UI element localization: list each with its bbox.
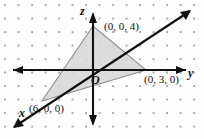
y-axis-letter: y: [188, 67, 193, 79]
z-axis-letter: z: [80, 5, 85, 17]
origin-letter: O: [91, 74, 100, 86]
point-label-x-intercept: (6, 0, 0): [29, 103, 64, 114]
point-label-y-intercept: (0, 3, 0): [144, 74, 179, 85]
axes-and-triangle: [0, 0, 204, 139]
point-label-z-intercept: (0, 0, 4): [104, 21, 139, 32]
x-axis-letter: x: [19, 107, 25, 119]
coordinate-plane-figure: z y x O (0, 0, 4) (0, 3, 0) (6, 0, 0): [0, 0, 204, 139]
